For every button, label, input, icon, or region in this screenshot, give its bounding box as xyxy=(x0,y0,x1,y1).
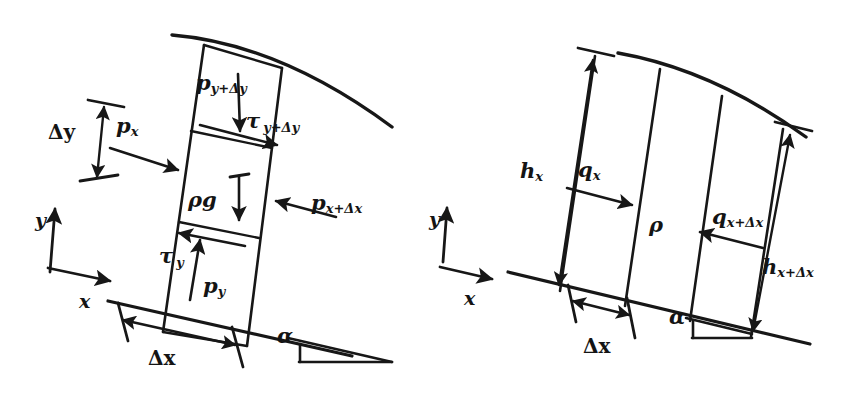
label-axis-y-left: y xyxy=(34,209,48,231)
label-h-x-plus-dx: hx+Δx xyxy=(762,254,814,280)
arrow-q-x-plus-dx xyxy=(700,232,763,248)
label-q-x-plus-dx: qx+Δx xyxy=(712,204,763,230)
dim-delta-x-line-left xyxy=(123,320,235,345)
alpha-wedge-hypotenuse-right xyxy=(686,318,752,334)
axis-x-arrow-right xyxy=(440,267,492,279)
dim-delta-x-tick-left-right xyxy=(568,285,576,322)
cv-edge-2-right xyxy=(625,69,660,306)
dim-h-x-tick-top xyxy=(578,48,614,56)
dim-delta-x-tick-right xyxy=(232,327,243,367)
label-delta-x-right: Δx xyxy=(583,334,612,358)
rho-g-top-tick xyxy=(230,174,249,177)
arrow-p-y xyxy=(190,240,200,300)
label-tau-y: τy xyxy=(159,243,185,270)
dim-delta-y-tick-top xyxy=(88,100,124,107)
label-p-x: px xyxy=(116,113,139,139)
label-tau-y-plus-dy: τy+Δy xyxy=(246,108,301,135)
label-axis-x-left: x xyxy=(78,290,91,312)
dim-delta-y-line xyxy=(97,107,104,177)
label-axis-x-right: x xyxy=(463,287,476,309)
label-axis-y-right: y xyxy=(428,208,442,230)
right-diagram-labels: hx qx ρ qx+Δx hx+Δx Δx α y x xyxy=(428,157,814,358)
dim-delta-y-tick-bottom xyxy=(80,175,118,181)
label-delta-y: Δy xyxy=(48,120,77,144)
right-diagram-group: hx qx ρ qx+Δx hx+Δx Δx α y x xyxy=(428,48,814,358)
bed-line-left xyxy=(108,301,352,356)
left-diagram-labels: py+Δy τy+Δy px px+Δx ρg τy py xyxy=(34,70,362,370)
label-p-x-plus-dx: px+Δx xyxy=(311,190,362,216)
label-p-y-plus-dy: py+Δy xyxy=(196,70,248,96)
figure-root: py+Δy τy+Δy px px+Δx ρg τy py xyxy=(0,0,867,399)
label-p-y: py xyxy=(203,273,227,299)
axis-y-arrow-right xyxy=(443,208,447,262)
free-surface-curve-right xyxy=(618,53,806,137)
dim-delta-x-tick-right-right xyxy=(627,298,635,338)
dim-h-x-plus-dx-line xyxy=(753,135,790,331)
label-q-x: qx xyxy=(578,157,601,183)
label-rho-g: ρg xyxy=(187,187,217,212)
arrow-tau-y xyxy=(179,233,245,246)
axis-y-arrow-left xyxy=(50,209,55,272)
label-alpha-right: α xyxy=(669,304,685,329)
cv-edge-4-right xyxy=(751,129,783,337)
bed-line-right xyxy=(508,272,810,344)
alpha-wedge-hypotenuse-left xyxy=(288,338,392,362)
dim-delta-x-line-right xyxy=(573,301,629,315)
left-diagram-group: py+Δy τy+Δy px px+Δx ρg τy py xyxy=(34,35,392,370)
label-rho-right: ρ xyxy=(648,212,664,237)
label-h-x: hx xyxy=(520,158,543,184)
diagram-canvas: py+Δy τy+Δy px px+Δx ρg τy py xyxy=(0,0,867,399)
label-delta-x-left: Δx xyxy=(148,346,177,370)
arrow-q-x xyxy=(567,188,632,205)
arrow-p-x xyxy=(110,148,178,170)
axis-x-arrow-left xyxy=(48,268,110,281)
label-alpha-left: α xyxy=(277,323,293,348)
